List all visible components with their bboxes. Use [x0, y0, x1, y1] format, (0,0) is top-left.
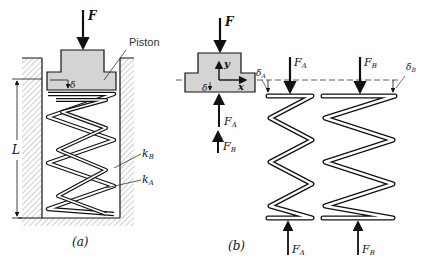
- delta-label-b: δ: [202, 83, 207, 93]
- spring-b-bottom-label: FB: [361, 243, 375, 257]
- left-wall-hatch: [22, 58, 42, 218]
- figure-a: F Piston δ L kB kA (a): [11, 9, 160, 249]
- fbd-piston: [185, 53, 255, 92]
- floor-hatch: [22, 218, 134, 226]
- delta-b-label: δB: [406, 62, 416, 73]
- spring-b-top-label: FB: [363, 56, 377, 70]
- delta-b-leader: [396, 76, 405, 88]
- piston: [47, 50, 116, 90]
- piston-label: Piston: [129, 36, 160, 48]
- spring-a-top-label: FA: [293, 56, 307, 70]
- axis-x-label: x: [237, 81, 245, 92]
- fb-label: FB: [222, 140, 236, 154]
- fa-label: FA: [223, 115, 237, 129]
- delta-a-leader: [262, 80, 267, 89]
- force-label-b: F: [224, 15, 235, 29]
- force-label-a: F: [87, 9, 98, 23]
- figure-b: F y x δ FA FB FA FB: [176, 15, 416, 257]
- diagram-canvas: F Piston δ L kB kA (a): [0, 0, 425, 267]
- delta-a-label: δA: [256, 68, 266, 79]
- axis-y-label: y: [223, 58, 231, 69]
- length-label: L: [11, 143, 20, 157]
- caption-a: (a): [72, 235, 89, 249]
- spring-a-bottom-label: FA: [291, 243, 305, 257]
- right-wall-hatch: [120, 58, 134, 218]
- spring-outer-label: kB: [142, 147, 154, 161]
- delta-label-a: δ: [70, 80, 75, 90]
- caption-b: (b): [228, 239, 245, 253]
- spring-inner-label: kA: [142, 173, 154, 187]
